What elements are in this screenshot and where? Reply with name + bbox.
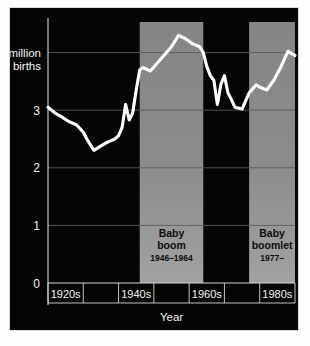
- y-tick-label-0: 0: [33, 277, 40, 291]
- band-label-title-baby-boomlet: Baby: [259, 227, 285, 239]
- x-tick-label-1960s: 1960s: [192, 288, 222, 300]
- band-label-title2-baby-boom: boom: [157, 239, 186, 251]
- y-tick-label-4-line2: births: [13, 60, 41, 72]
- figure-container: Babyboom1946–1964Babyboomlet1977– 01234 …: [0, 0, 310, 346]
- y-tick-label-3: 3: [33, 104, 40, 118]
- band-label-title2-baby-boomlet: boomlet: [252, 239, 293, 251]
- y-tick-label-1: 1: [33, 219, 40, 233]
- x-tick-label-1940s: 1940s: [121, 288, 151, 300]
- x-tick-label-1920s: 1920s: [51, 288, 81, 300]
- band-label-years-baby-boomlet: 1977–: [260, 253, 284, 263]
- band-label-title-baby-boom: Baby: [159, 227, 185, 239]
- band-label-years-baby-boom: 1946–1964: [150, 253, 193, 263]
- x-axis-title: Year: [160, 311, 183, 323]
- x-axis-title-text: Year: [160, 311, 183, 323]
- y-tick-label-2: 2: [33, 161, 40, 175]
- y-tick-label-4-line1: 4 million: [10, 47, 41, 59]
- births-line-chart: Babyboom1946–1964Babyboomlet1977– 01234 …: [10, 8, 298, 330]
- x-tick-label-1980s: 1980s: [262, 288, 292, 300]
- chart-panel: Babyboom1946–1964Babyboomlet1977– 01234 …: [10, 8, 298, 330]
